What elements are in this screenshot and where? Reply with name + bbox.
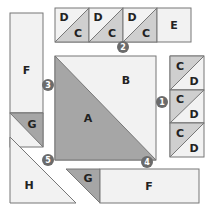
label-d: D bbox=[127, 11, 136, 24]
badge-4: 4 bbox=[141, 156, 153, 168]
label-d: D bbox=[93, 11, 102, 24]
label-c: C bbox=[142, 27, 150, 40]
label-d: D bbox=[59, 11, 68, 24]
label-c: C bbox=[176, 93, 184, 106]
bottom-strip: G F bbox=[66, 169, 199, 203]
label-c: C bbox=[176, 127, 184, 140]
top-hst-1: D C bbox=[55, 8, 89, 42]
label-g-bottom: G bbox=[83, 172, 92, 185]
label-e: E bbox=[170, 19, 178, 32]
label-f-bottom: F bbox=[145, 180, 153, 193]
label-f-left: F bbox=[23, 64, 31, 77]
svg-text:1: 1 bbox=[159, 98, 165, 107]
right-hst-3: C D bbox=[170, 123, 204, 157]
badge-3: 3 bbox=[42, 79, 54, 91]
badge-5: 5 bbox=[42, 154, 54, 166]
label-g-left: G bbox=[27, 118, 36, 131]
svg-text:2: 2 bbox=[120, 43, 126, 52]
label-a: A bbox=[84, 112, 93, 125]
right-hst-1: C D bbox=[170, 56, 204, 90]
label-b: B bbox=[122, 74, 130, 87]
label-h: H bbox=[24, 179, 33, 192]
badge-2: 2 bbox=[117, 41, 129, 53]
left-rect-f: F bbox=[10, 13, 43, 113]
top-row: D C D C D C E bbox=[55, 8, 191, 42]
quilt-assembly-diagram: F G D C D C D C E bbox=[0, 0, 210, 218]
svg-text:3: 3 bbox=[45, 81, 51, 90]
top-hst-2: D C bbox=[89, 8, 123, 42]
svg-text:4: 4 bbox=[144, 158, 150, 167]
big-square: A B bbox=[55, 56, 156, 160]
svg-text:5: 5 bbox=[45, 156, 51, 165]
label-c: C bbox=[108, 27, 116, 40]
right-column: C D C D C D bbox=[170, 56, 204, 157]
right-hst-2: C D bbox=[170, 90, 204, 123]
label-c: C bbox=[74, 27, 82, 40]
badge-1: 1 bbox=[156, 96, 168, 108]
top-hst-3: D C bbox=[123, 8, 157, 42]
label-c: C bbox=[176, 60, 184, 73]
label-d: D bbox=[189, 142, 198, 155]
label-d: D bbox=[189, 108, 198, 121]
label-d: D bbox=[189, 75, 198, 88]
top-square-e: E bbox=[157, 8, 191, 42]
